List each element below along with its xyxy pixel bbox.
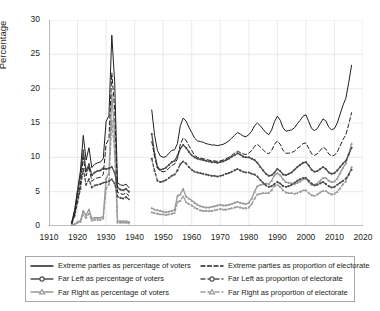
legend-item: Extreme parties as proportion of elector… bbox=[196, 261, 356, 271]
series-marker bbox=[345, 160, 347, 162]
y-tick-label: 20 bbox=[14, 83, 40, 93]
series-marker bbox=[322, 181, 324, 183]
series-marker bbox=[128, 198, 130, 200]
series-marker bbox=[339, 182, 341, 184]
series-marker bbox=[99, 183, 101, 185]
series-marker bbox=[222, 174, 224, 176]
series-marker bbox=[168, 177, 170, 179]
series-marker bbox=[122, 197, 124, 199]
series-marker bbox=[219, 161, 221, 163]
series-marker bbox=[296, 166, 298, 168]
series-marker bbox=[276, 181, 278, 183]
series-marker bbox=[182, 188, 185, 190]
series-marker bbox=[351, 147, 353, 149]
series-marker bbox=[313, 184, 315, 186]
series-marker bbox=[205, 160, 207, 162]
series-marker bbox=[159, 181, 161, 183]
series-line bbox=[72, 35, 129, 222]
series-marker bbox=[342, 183, 345, 185]
series-marker bbox=[316, 170, 318, 172]
series-marker bbox=[253, 159, 255, 161]
legend-label: Extreme parties as proportion of elector… bbox=[228, 261, 369, 270]
series-marker bbox=[105, 181, 107, 183]
y-tick-label: 10 bbox=[14, 151, 40, 161]
series-marker bbox=[154, 170, 156, 172]
legend-swatch bbox=[30, 274, 54, 284]
series-marker bbox=[259, 166, 261, 168]
series-marker bbox=[105, 168, 107, 170]
series-marker bbox=[348, 173, 350, 175]
series-marker bbox=[128, 191, 130, 193]
series-marker bbox=[276, 168, 278, 170]
legend-label: Extreme parties as percentage of voters bbox=[58, 261, 191, 270]
series-marker bbox=[256, 176, 258, 178]
series-marker bbox=[302, 162, 304, 164]
series-marker bbox=[231, 171, 233, 173]
series-marker bbox=[248, 171, 250, 173]
series-marker bbox=[291, 184, 293, 186]
series-marker bbox=[236, 168, 238, 170]
series-marker bbox=[279, 170, 281, 172]
series-marker bbox=[296, 180, 298, 182]
legend-item: Far Left as proportion of electorate bbox=[196, 274, 356, 284]
series-marker bbox=[162, 168, 164, 170]
series-marker bbox=[293, 182, 295, 184]
series-marker bbox=[319, 168, 321, 170]
series-marker bbox=[245, 156, 247, 158]
series-marker bbox=[171, 175, 173, 177]
series-marker bbox=[202, 173, 204, 175]
y-tick-label: 0 bbox=[14, 220, 40, 230]
series-marker bbox=[288, 185, 290, 187]
series-marker bbox=[325, 168, 327, 170]
legend-label: Far Left as percentage of voters bbox=[58, 274, 164, 283]
series-marker bbox=[348, 154, 350, 156]
series-marker bbox=[331, 187, 333, 189]
series-marker bbox=[316, 184, 318, 186]
series-marker bbox=[182, 160, 184, 162]
series-marker bbox=[342, 180, 344, 182]
series-marker bbox=[325, 183, 327, 185]
series-marker bbox=[253, 173, 255, 175]
series-marker bbox=[351, 169, 353, 171]
series-marker bbox=[293, 169, 295, 171]
series-marker bbox=[234, 154, 236, 156]
series-marker bbox=[125, 196, 127, 198]
series-marker bbox=[174, 160, 176, 162]
series-marker bbox=[279, 182, 281, 184]
series-marker bbox=[94, 171, 96, 173]
series-marker bbox=[268, 175, 270, 177]
series-marker bbox=[285, 186, 287, 188]
series-marker bbox=[208, 174, 210, 176]
series-marker bbox=[151, 133, 153, 135]
series-marker bbox=[111, 178, 113, 180]
series-marker bbox=[102, 182, 104, 184]
series-marker bbox=[251, 173, 253, 175]
series-marker bbox=[114, 171, 116, 173]
legend-label: Far Left as proportion of electorate bbox=[228, 274, 343, 283]
series-marker bbox=[236, 152, 238, 154]
series-marker bbox=[179, 163, 181, 165]
series-marker bbox=[99, 169, 101, 171]
series-marker bbox=[216, 176, 218, 178]
chart-legend: Extreme parties as percentage of votersE… bbox=[25, 256, 355, 302]
legend-grid: Extreme parties as percentage of votersE… bbox=[26, 257, 354, 301]
series-marker bbox=[188, 166, 190, 168]
series-marker bbox=[165, 167, 167, 169]
series-marker bbox=[302, 177, 304, 179]
series-marker bbox=[88, 178, 90, 180]
series-marker bbox=[342, 162, 344, 164]
series-marker bbox=[185, 162, 187, 164]
legend-item: Far Right as percentage of voters bbox=[26, 287, 196, 297]
series-marker bbox=[333, 186, 335, 188]
series-marker bbox=[91, 187, 93, 189]
series-marker bbox=[299, 178, 301, 180]
series-marker bbox=[182, 144, 184, 146]
series-marker bbox=[271, 185, 273, 187]
series-marker bbox=[225, 159, 227, 161]
series-marker bbox=[265, 184, 267, 186]
series-marker bbox=[322, 166, 324, 168]
series-marker bbox=[262, 182, 264, 184]
series-marker bbox=[319, 182, 321, 184]
series-marker bbox=[168, 164, 170, 166]
series-marker bbox=[339, 187, 342, 189]
